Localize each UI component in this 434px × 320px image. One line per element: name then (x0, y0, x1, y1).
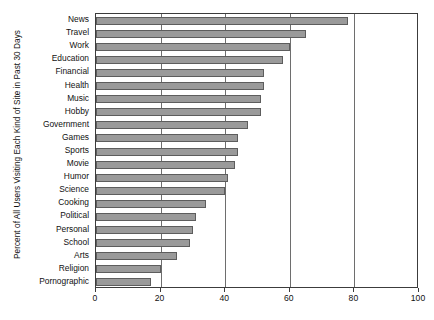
x-tick-mark (353, 288, 354, 292)
x-tick-mark (289, 288, 290, 292)
bar (96, 17, 348, 25)
y-axis-tick-label: Health (65, 81, 89, 90)
x-tick-label: 100 (411, 293, 425, 303)
bar (96, 148, 238, 156)
y-axis-tick-label: School (63, 238, 89, 247)
y-axis-tick-label: Movie (67, 159, 89, 168)
x-tick-mark (224, 288, 225, 292)
bar-series (96, 14, 417, 287)
bar (96, 161, 235, 169)
bar (96, 239, 190, 247)
bar (96, 30, 306, 38)
y-axis-tick-label: Arts (74, 251, 89, 260)
bar (96, 69, 264, 77)
x-tick-label: 40 (219, 293, 229, 303)
bar (96, 278, 151, 286)
bar (96, 95, 261, 103)
x-tick-label: 60 (284, 293, 294, 303)
bar (96, 43, 290, 51)
y-axis-tick-label: Sports (65, 146, 89, 155)
bar (96, 56, 283, 64)
y-axis-tick-labels: NewsTravelWorkEducationFinancialHealthMu… (0, 13, 92, 288)
x-axis-ticks: 020406080100 (95, 288, 418, 310)
y-axis-tick-label: Education (52, 54, 89, 63)
bar (96, 187, 225, 195)
x-tick-label: 20 (155, 293, 165, 303)
x-tick-mark (160, 288, 161, 292)
bar (96, 174, 228, 182)
y-axis-tick-label: Humor (64, 172, 89, 181)
bar (96, 82, 264, 90)
bar (96, 265, 161, 273)
bar (96, 226, 193, 234)
y-axis-tick-label: Cooking (58, 198, 89, 207)
x-tick-mark (418, 288, 419, 292)
bar (96, 252, 177, 260)
y-axis-tick-label: Work (70, 41, 89, 50)
y-axis-tick-label: Political (60, 211, 89, 220)
y-axis-tick-label: Financial (55, 67, 89, 76)
y-axis-tick-label: Religion (59, 264, 89, 273)
plot-area (95, 13, 418, 288)
bar (96, 108, 261, 116)
y-axis-tick-label: Personal (56, 225, 89, 234)
bar (96, 121, 248, 129)
y-axis-tick-label: Games (62, 133, 89, 142)
bar (96, 200, 206, 208)
x-tick-label: 80 (349, 293, 359, 303)
horizontal-bar-chart: Percent of All Users Visiting Each Kind … (0, 0, 434, 320)
x-tick-label: 0 (93, 293, 98, 303)
y-axis-tick-label: Travel (66, 28, 89, 37)
x-tick-mark (95, 288, 96, 292)
y-axis-tick-label: Hobby (65, 107, 89, 116)
y-axis-tick-label: Government (43, 120, 89, 129)
y-axis-tick-label: News (68, 15, 89, 24)
y-axis-tick-label: Science (59, 185, 89, 194)
bar (96, 213, 196, 221)
y-axis-tick-label: Music (67, 94, 89, 103)
bar (96, 134, 238, 142)
y-axis-tick-label: Pornographic (39, 277, 89, 286)
